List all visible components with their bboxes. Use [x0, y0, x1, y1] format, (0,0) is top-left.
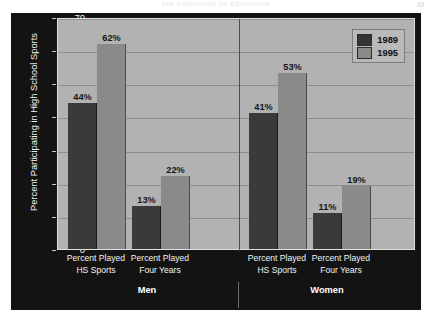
category-label-4: Percent PlayedFour Years	[289, 253, 393, 276]
legend: 1989 1995	[352, 29, 405, 63]
y-tick-mark	[52, 217, 56, 218]
legend-label-1995: 1995	[377, 48, 398, 58]
y-tick-mark	[52, 84, 56, 85]
running-head-title: The Condition of Education	[0, 1, 432, 7]
group-label-men: Men	[97, 285, 197, 295]
y-axis-title: Percent Participating in High School Spo…	[29, 15, 39, 229]
group-divider-bottom	[238, 282, 239, 308]
y-tick-mark	[52, 250, 56, 251]
y-tick-mark	[52, 184, 56, 185]
bar-1989-3	[249, 113, 278, 249]
bar-label-1989-4: 11%	[309, 202, 346, 212]
bar-1995-2	[161, 176, 190, 249]
y-tick-mark	[52, 51, 56, 52]
bar-label-1995-2: 22%	[157, 165, 194, 175]
bar-label-1989-2: 13%	[128, 195, 165, 205]
category-label-line: Four Years	[108, 265, 212, 277]
chart-panel: Percent Participating in High School Spo…	[11, 13, 421, 310]
bar-1989-2	[132, 206, 161, 249]
category-labels: Percent PlayedHS SportsPercent PlayedFou…	[57, 253, 415, 283]
y-tick-mark	[52, 151, 56, 152]
legend-label-1989: 1989	[377, 35, 398, 45]
category-label-2: Percent PlayedFour Years	[108, 253, 212, 276]
bar-1995-1	[97, 44, 126, 249]
bar-label-1995-4: 19%	[338, 175, 375, 185]
bar-label-1989-3: 41%	[245, 102, 282, 112]
group-labels: MenWomen	[57, 285, 415, 301]
category-label-line: Percent Played	[108, 253, 212, 265]
bar-label-1995-1: 62%	[93, 33, 130, 43]
legend-item-1989: 1989	[357, 33, 398, 46]
legend-swatch-1989	[357, 34, 372, 46]
bar-label-1995-3: 53%	[274, 62, 311, 72]
y-tick-mark	[52, 18, 56, 19]
y-tick-mark	[52, 117, 56, 118]
running-head: The Condition of Education 33	[0, 1, 432, 11]
bar-1989-1	[68, 103, 97, 249]
bar-label-1989-1: 44%	[64, 92, 101, 102]
page-number: 33	[417, 1, 424, 8]
legend-item-1995: 1995	[357, 46, 398, 59]
gridline	[58, 19, 414, 20]
legend-swatch-1995	[357, 47, 372, 59]
group-label-women: Women	[277, 285, 377, 295]
plot-area: 44%13%41%11%62%22%53%19% 1989 1995	[57, 18, 415, 250]
group-divider	[239, 19, 240, 251]
bar-1989-4	[313, 213, 342, 249]
category-label-line: Percent Played	[289, 253, 393, 265]
bar-1995-3	[278, 73, 307, 249]
bar-1995-4	[342, 186, 371, 249]
category-label-line: Four Years	[289, 265, 393, 277]
